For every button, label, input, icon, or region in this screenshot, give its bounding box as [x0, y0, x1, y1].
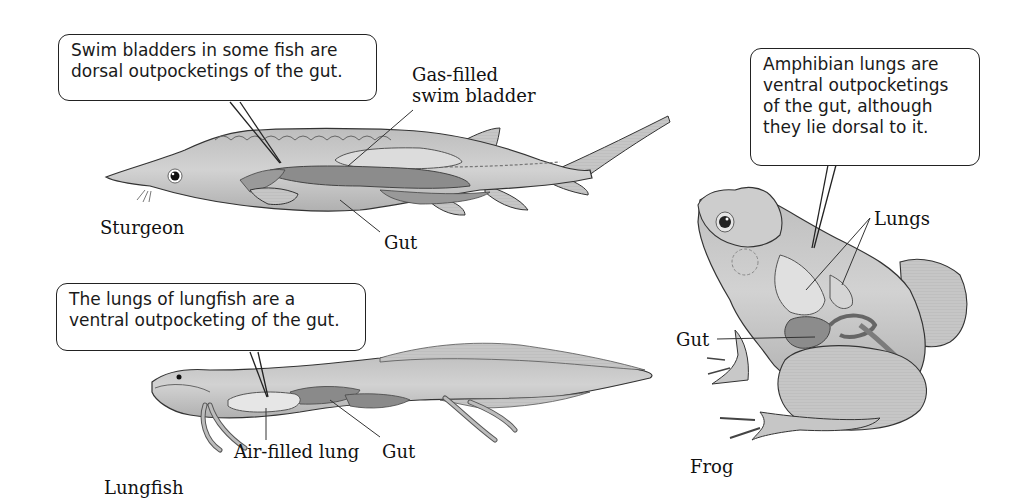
sturgeon-callout-line-2: dorsal outpocketings of the gut. [71, 61, 364, 82]
lungfish-callout-line-1: The lungs of lungfish are a [69, 289, 353, 310]
sturgeon-callout: Swim bladders in some fish are dorsal ou… [58, 34, 377, 101]
sturgeon-illustration [106, 102, 670, 232]
lungfish-callout-line-2: ventral outpocketing of the gut. [69, 310, 353, 331]
swim-bladder-label-line-2: swim bladder [412, 85, 536, 106]
diagram-stage: Swim bladders in some fish are dorsal ou… [0, 0, 1035, 500]
frog-gut-label: Gut [676, 329, 709, 350]
frog-name-label: Frog [690, 456, 733, 477]
lungfish-illustration [152, 343, 652, 450]
frog-callout-line-2: ventral outpocketings [763, 75, 967, 96]
air-filled-lung-label: Air-filled lung [234, 441, 359, 462]
lungfish-gut-label: Gut [382, 441, 415, 462]
swim-bladder-label: Gas-filled swim bladder [412, 64, 536, 106]
sturgeon-gut-label: Gut [384, 232, 417, 253]
frog-callout-line-1: Amphibian lungs are [763, 54, 967, 75]
sturgeon-name-label: Sturgeon [100, 217, 184, 238]
lungfish-callout: The lungs of lungfish are a ventral outp… [56, 283, 366, 351]
frog-illustration [698, 165, 967, 440]
frog-callout-line-3: of the gut, although [763, 96, 967, 117]
swim-bladder-label-line-1: Gas-filled [412, 64, 536, 85]
frog-callout: Amphibian lungs are ventral outpocketing… [750, 48, 980, 166]
sturgeon-callout-line-1: Swim bladders in some fish are [71, 40, 364, 61]
frog-callout-line-4: they lie dorsal to it. [763, 117, 967, 138]
lungfish-name-label: Lungfish [104, 477, 184, 498]
frog-lungs-label: Lungs [874, 208, 930, 229]
